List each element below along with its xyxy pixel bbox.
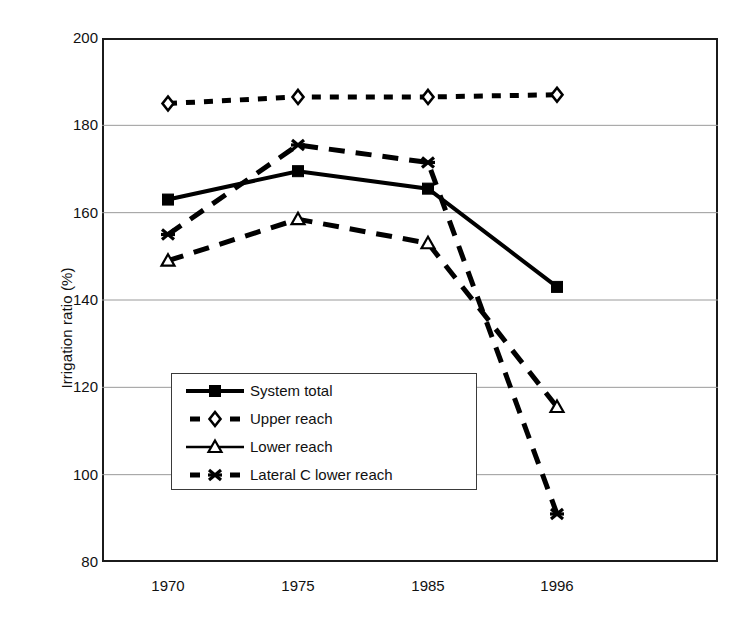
legend-key-filled-square-icon [184, 378, 246, 404]
data-point-open-diamond-marker [423, 90, 434, 104]
series-1 [163, 88, 563, 111]
x-tick-label: 1996 [517, 578, 597, 593]
data-point-open-diamond-marker [293, 90, 304, 104]
data-point-asterisk-marker [208, 470, 222, 480]
data-point-asterisk-marker [161, 230, 175, 240]
legend-item-0: System total [172, 377, 476, 405]
legend-item-3: Lateral C lower reach [172, 461, 476, 489]
data-point-filled-square-marker [423, 183, 434, 194]
chart-figure: Irrigation ratio (%) 2001801601401201008… [0, 0, 744, 624]
legend-key-open-diamond-icon [184, 406, 246, 432]
data-point-open-diamond-marker [552, 88, 563, 102]
legend-label: System total [246, 383, 333, 399]
series-line [168, 95, 557, 104]
data-point-open-diamond-marker [210, 412, 221, 426]
x-tick-label: 1975 [258, 578, 338, 593]
chart-legend: System totalUpper reachLower reachLatera… [171, 373, 477, 490]
data-point-filled-square-marker [210, 386, 221, 397]
x-tick-label: 1970 [128, 578, 208, 593]
x-tick-label: 1985 [388, 578, 468, 593]
legend-label: Lateral C lower reach [246, 467, 393, 483]
legend-label: Lower reach [246, 439, 333, 455]
data-point-open-diamond-marker [163, 97, 174, 111]
legend-item-2: Lower reach [172, 433, 476, 461]
legend-item-1: Upper reach [172, 405, 476, 433]
legend-label: Upper reach [246, 411, 333, 427]
data-point-asterisk-marker [421, 157, 435, 167]
legend-key-open-triangle-icon [184, 434, 246, 460]
data-point-open-triangle-marker [422, 237, 435, 249]
data-point-filled-square-marker [163, 194, 174, 205]
data-point-filled-square-marker [552, 281, 563, 292]
data-point-asterisk-marker [291, 140, 305, 150]
data-point-filled-square-marker [293, 166, 304, 177]
legend-key-asterisk-icon [184, 462, 246, 488]
